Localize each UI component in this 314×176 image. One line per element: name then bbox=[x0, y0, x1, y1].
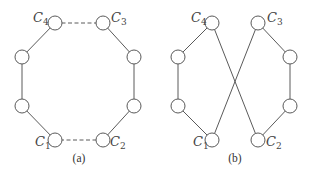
label-c3: C3 bbox=[267, 10, 283, 27]
label-c4: C4 bbox=[33, 10, 49, 27]
node bbox=[127, 50, 141, 64]
node bbox=[283, 99, 297, 113]
node-c4 bbox=[48, 16, 62, 30]
node-c4 bbox=[205, 16, 219, 30]
caption-b: (b) bbox=[228, 152, 242, 165]
node-c2 bbox=[96, 133, 110, 147]
ring-diagram: C4 C3 C1 C2 (a) C4 C3 C1 C2 (b) bbox=[0, 0, 314, 176]
label-c1: C1 bbox=[35, 134, 51, 151]
node bbox=[171, 99, 185, 113]
label-c2: C2 bbox=[266, 134, 282, 151]
node bbox=[15, 50, 29, 64]
panel-b: C4 C3 C1 C2 (b) bbox=[171, 10, 297, 165]
label-c4: C4 bbox=[191, 10, 207, 27]
label-c2: C2 bbox=[110, 134, 126, 151]
node bbox=[127, 99, 141, 113]
node bbox=[171, 50, 185, 64]
caption-a: (a) bbox=[73, 152, 86, 165]
node bbox=[15, 99, 29, 113]
node-c3 bbox=[96, 16, 110, 30]
label-c3: C3 bbox=[111, 10, 127, 27]
panel-a: C4 C3 C1 C2 (a) bbox=[15, 10, 141, 165]
node bbox=[283, 50, 297, 64]
node-c2 bbox=[251, 133, 265, 147]
node-c3 bbox=[251, 16, 265, 30]
